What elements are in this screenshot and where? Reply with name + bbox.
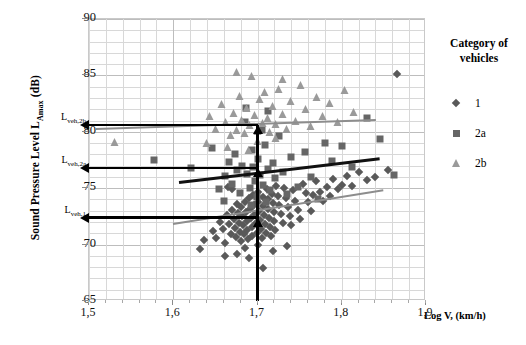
data-point-2a (220, 197, 227, 204)
annotation-label-sub: veh,2a (68, 160, 86, 168)
grid-line-vertical (140, 19, 141, 299)
legend-item-label: 2b (475, 157, 487, 169)
x-tick-label: 1,5 (58, 305, 118, 320)
y-tick-mark (82, 18, 88, 19)
data-point-2b (202, 139, 210, 147)
x-tick-mark-minor (408, 300, 409, 303)
x-tick-label: 1,8 (311, 305, 371, 320)
legend: Category of vehicles 12a2b (432, 36, 526, 178)
data-point-2b (206, 112, 214, 120)
data-point-2b (297, 81, 305, 89)
data-point-2b (218, 100, 226, 108)
data-point-2a (262, 142, 269, 149)
arrow-head-up-icon (253, 168, 263, 177)
data-point-2b (224, 143, 232, 151)
y-tick-mark (82, 131, 88, 132)
data-point-2b (350, 108, 358, 116)
data-point-2a (247, 202, 254, 209)
data-point-2b (233, 68, 241, 76)
x-tick-mark-minor (240, 300, 241, 303)
grid-line-vertical (325, 19, 326, 299)
data-point-2b (229, 109, 237, 117)
grid-line-vertical (409, 19, 410, 299)
data-point-2a (294, 184, 301, 191)
x-tick-mark-minor (391, 300, 392, 303)
data-point-2a (236, 189, 243, 196)
x-tick-mark-minor (290, 300, 291, 303)
data-point-2b (250, 111, 258, 119)
x-tick-mark-minor (307, 300, 308, 303)
grid-line-vertical (342, 19, 343, 299)
data-point-2a (150, 157, 157, 164)
annotation-label-L_veh,2b: Lveh,2b (16, 111, 86, 125)
x-tick-mark-minor (122, 300, 123, 303)
annotation-line-L_veh,2a (89, 167, 258, 170)
grid-line-vertical (392, 19, 393, 299)
annotation-label-sub: veh,2b (67, 117, 86, 125)
data-point-2b (261, 88, 269, 96)
data-point-2a (262, 198, 269, 205)
data-point-2b (313, 93, 321, 101)
plot-area (88, 18, 425, 300)
data-point-2a (288, 153, 295, 160)
x-tick-mark-minor (273, 300, 274, 303)
data-point-2a (267, 187, 274, 194)
y-tick-mark (82, 244, 88, 245)
legend-item-2b[interactable]: 2b (432, 148, 526, 178)
x-tick-mark-minor (139, 300, 140, 303)
data-point-2b (307, 122, 315, 130)
data-point-2b (235, 92, 243, 100)
grid-line-vertical (190, 19, 191, 299)
data-point-2b (325, 99, 333, 107)
arrow-head-up-icon (253, 218, 263, 227)
arrow-head-up-icon (253, 125, 263, 134)
data-point-2a (321, 140, 328, 147)
data-point-2a (231, 151, 238, 158)
data-point-2b (287, 97, 295, 105)
legend-item-1[interactable]: 1 (432, 88, 526, 118)
data-point-2a (215, 186, 222, 193)
legend-item-label: 1 (475, 97, 481, 109)
annotation-label-L_veh,1: Lveh,1 (16, 204, 86, 218)
grid-line-vertical (106, 19, 107, 299)
annotation-line-L_veh,1 (89, 216, 258, 219)
data-point-2b (319, 112, 327, 120)
data-point-2b (263, 114, 271, 122)
data-point-2b (268, 102, 276, 110)
x-tick-mark (172, 300, 173, 305)
diamond-icon (450, 100, 462, 106)
x-tick-mark-minor (88, 300, 89, 303)
x-tick-mark-minor (358, 300, 359, 303)
legend-item-label: 2a (475, 127, 486, 139)
data-point-2a (283, 190, 290, 197)
grid-line-vertical (241, 19, 242, 299)
x-tick-mark-minor (105, 300, 106, 303)
data-point-2a (301, 149, 308, 156)
legend-item-2a[interactable]: 2a (432, 118, 526, 148)
data-point-2a (269, 160, 276, 167)
vertical-marker-line (256, 125, 259, 301)
x-tick-mark-minor (155, 300, 156, 303)
data-point-2a (272, 175, 279, 182)
data-point-2b (245, 146, 253, 154)
data-point-2b (240, 129, 248, 137)
grid-line-vertical (308, 19, 309, 299)
legend-title: Category of vehicles (432, 36, 526, 66)
data-point-2b (282, 125, 290, 133)
x-tick-mark-minor (324, 300, 325, 303)
x-tick-mark-minor (425, 300, 426, 303)
grid-line-vertical (207, 19, 208, 299)
data-point-2a (338, 143, 345, 150)
data-point-2a (348, 163, 355, 170)
triangle-icon (450, 159, 462, 167)
legend-items: 12a2b (432, 88, 526, 178)
x-axis-title: Log V, (km/h) (424, 310, 486, 321)
x-tick-label: 1,6 (142, 305, 202, 320)
x-tick-mark-minor (257, 300, 258, 303)
data-point-2a (229, 180, 236, 187)
data-point-2b (272, 134, 280, 142)
x-tick-mark-minor (223, 300, 224, 303)
data-point-2a (390, 171, 397, 178)
data-point-2b (275, 85, 283, 93)
x-tick-mark-minor (341, 300, 342, 303)
